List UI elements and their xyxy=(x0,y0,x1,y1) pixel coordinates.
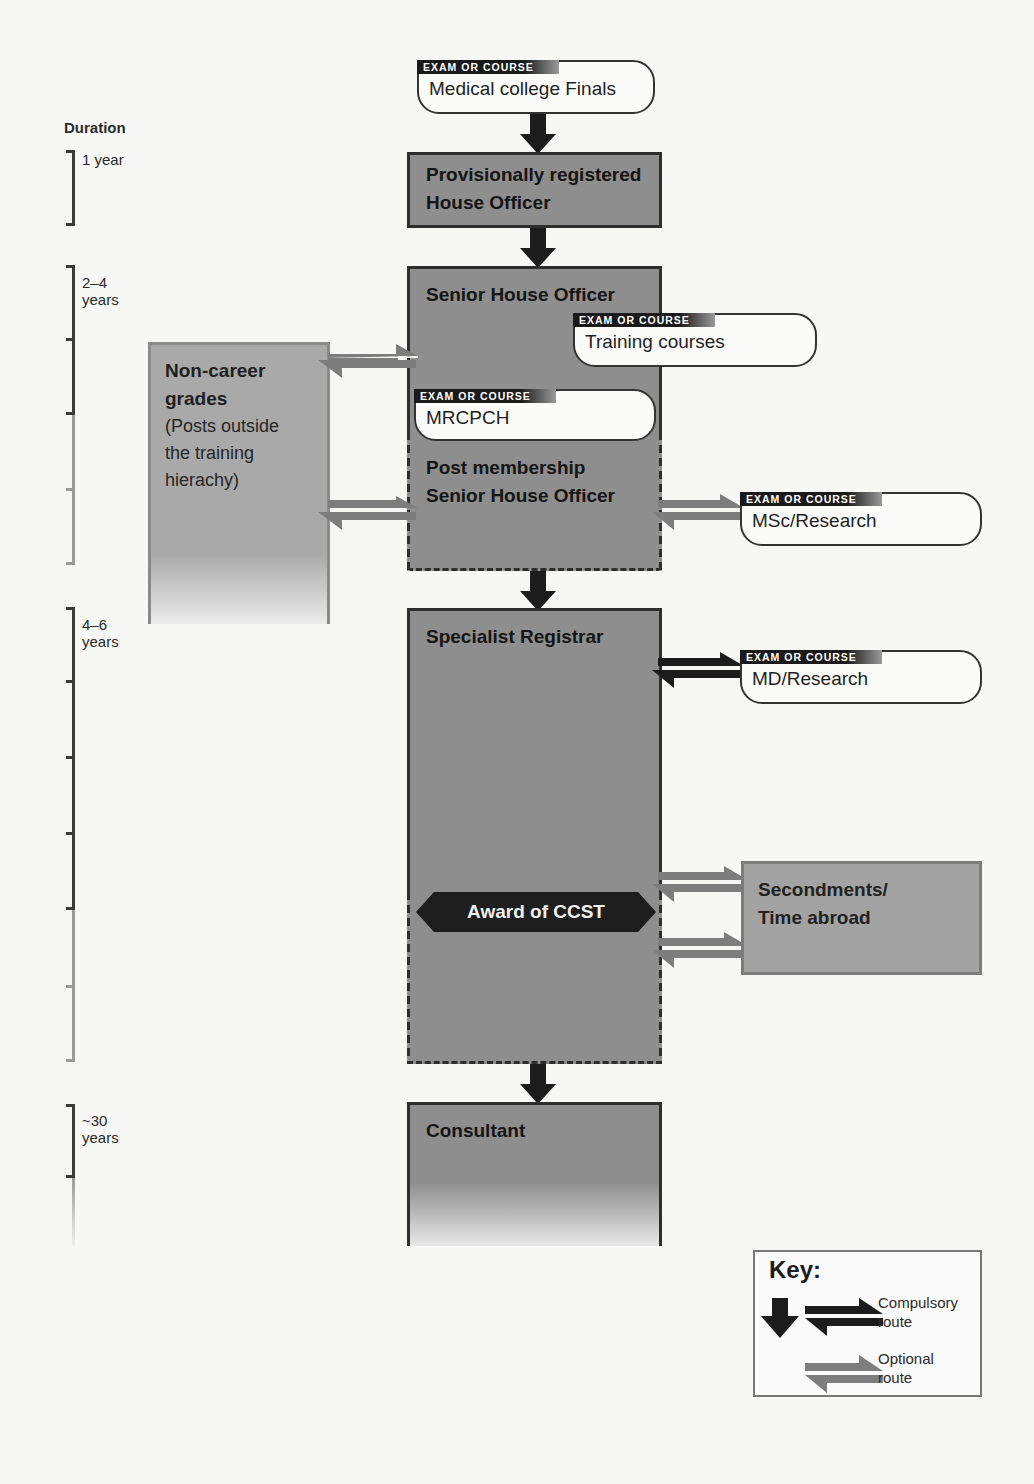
non-career-grades-box: Non-career grades (Posts outside the tra… xyxy=(148,342,330,624)
compulsory-arrow-down-icon xyxy=(520,114,556,156)
compulsory-down-arrow-icon xyxy=(761,1298,799,1338)
key-title: Key: xyxy=(769,1256,821,1284)
duration-bracket-2-4-years-extension xyxy=(66,415,75,565)
duration-label-2-4-years: 2–4 years xyxy=(82,274,119,308)
exam-label: Medical college Finals xyxy=(429,77,616,101)
exam-medical-college-finals: EXAM OR COURSE Medical college Finals xyxy=(417,60,655,114)
optional-route-arrow-icon xyxy=(652,932,748,972)
exam-md-research: EXAM OR COURSE MD/Research xyxy=(740,650,982,704)
exam-training-courses: EXAM OR COURSE Training courses xyxy=(573,313,817,367)
exam-or-course-tag: EXAM OR COURSE xyxy=(740,492,882,506)
legend-key: Key: Compulsory route Optional route xyxy=(753,1250,982,1397)
exam-mrcpch: EXAM OR COURSE MRCPCH xyxy=(414,389,656,441)
optional-route-arrow-icon xyxy=(805,1355,883,1393)
duration-bracket-4-6-years xyxy=(66,607,75,910)
spr-dashed-right-edge xyxy=(659,892,662,1064)
grade-box-prho: Provisionally registered House Officer xyxy=(407,152,662,228)
exam-label: MSc/Research xyxy=(752,509,877,533)
exam-msc-research: EXAM OR COURSE MSc/Research xyxy=(740,492,982,546)
duration-label-30-years: ~30 years xyxy=(82,1112,119,1146)
grade-title-consultant: Consultant xyxy=(426,1117,525,1145)
grade-title-spr: Specialist Registrar xyxy=(426,623,603,651)
duration-bracket-4-6-years-extension xyxy=(66,910,75,1062)
optional-route-arrow-icon xyxy=(318,344,418,384)
duration-label-1-year: 1 year xyxy=(82,151,124,168)
duration-label-4-6-years: 4–6 years xyxy=(82,616,119,650)
grade-title-sho: Senior House Officer xyxy=(426,281,615,309)
duration-bracket-30-years-fade xyxy=(72,1178,75,1246)
compulsory-arrow-down-icon xyxy=(520,228,556,270)
award-of-ccst-milestone: Award of CCST xyxy=(416,892,656,932)
exam-or-course-tag: EXAM OR COURSE xyxy=(414,389,556,403)
compulsory-route-arrow-icon xyxy=(805,1298,883,1336)
grade-title: Provisionally registered House Officer xyxy=(426,161,641,217)
grade-box-specialist-registrar: Specialist Registrar xyxy=(407,608,662,1064)
exam-or-course-tag: EXAM OR COURSE xyxy=(417,60,559,74)
exam-label: Training courses xyxy=(585,330,725,354)
duration-heading: Duration xyxy=(64,119,126,136)
duration-bracket-2-4-years xyxy=(66,265,75,415)
key-compulsory-label: Compulsory route xyxy=(878,1293,958,1331)
grade-title-post-membership-sho: Post membership Senior House Officer xyxy=(426,454,615,510)
compulsory-arrow-down-icon xyxy=(520,1064,556,1106)
optional-route-arrow-icon xyxy=(652,494,744,534)
exam-label: MRCPCH xyxy=(426,406,509,430)
exam-label: MD/Research xyxy=(752,667,868,691)
compulsory-arrow-down-icon xyxy=(520,571,556,613)
compulsory-route-arrow-icon xyxy=(652,652,744,692)
spr-dashed-left-edge xyxy=(407,892,410,1064)
exam-or-course-tag: EXAM OR COURSE xyxy=(573,313,715,327)
exam-or-course-tag: EXAM OR COURSE xyxy=(740,650,882,664)
grade-box-consultant: Consultant xyxy=(407,1102,662,1246)
duration-bracket-30-years xyxy=(66,1104,75,1178)
secondments-time-abroad-box: Secondments/ Time abroad xyxy=(741,861,982,975)
optional-route-arrow-icon xyxy=(652,866,748,906)
duration-bracket-1-year xyxy=(66,150,75,226)
key-optional-label: Optional route xyxy=(878,1349,934,1387)
optional-route-arrow-icon xyxy=(318,496,418,536)
